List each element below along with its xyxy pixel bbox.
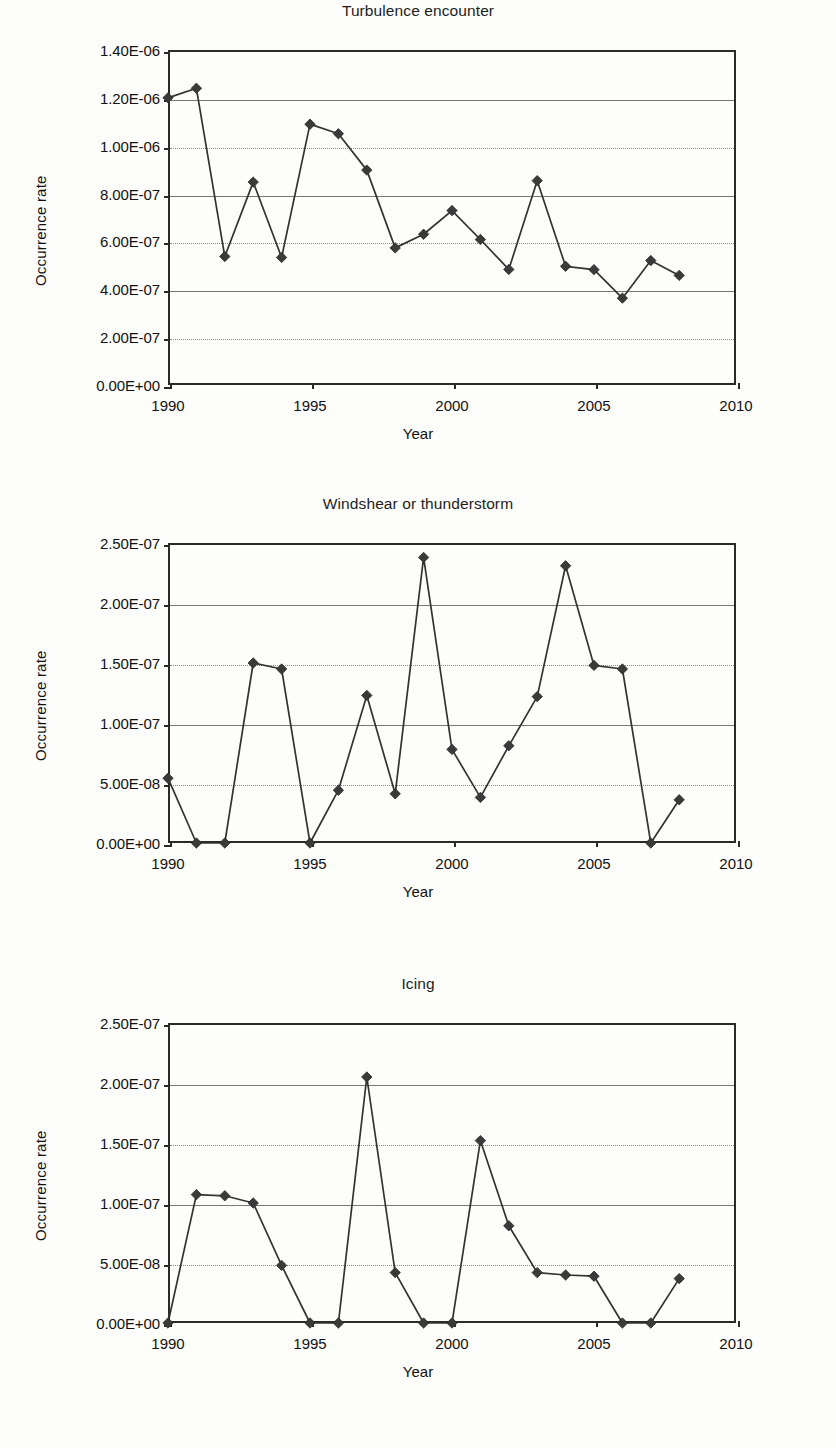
data-point-marker: [333, 1318, 343, 1328]
x-axis-tick-label: 2000: [435, 397, 468, 414]
data-point-marker: [475, 792, 485, 802]
data-point-marker: [163, 1318, 173, 1328]
chart-title: Turbulence encounter: [0, 0, 836, 22]
data-point-marker: [333, 785, 343, 795]
data-point-marker: [674, 795, 684, 805]
data-point-marker: [646, 838, 656, 848]
plot-area: Occurrence rate0.00E+005.00E-081.00E-071…: [0, 515, 836, 905]
data-point-marker: [532, 691, 542, 701]
data-point-marker: [248, 658, 258, 668]
x-axis-tick-label: 2005: [577, 397, 610, 414]
data-point-marker: [390, 1267, 400, 1277]
data-point-marker: [220, 1191, 230, 1201]
x-axis-tick-label: 1995: [293, 1335, 326, 1352]
data-point-marker: [191, 838, 201, 848]
x-axis-tick-label: 2005: [577, 1335, 610, 1352]
chart-title: Icing: [0, 973, 836, 995]
data-point-marker: [504, 741, 514, 751]
x-axis-tick-label: 1995: [293, 397, 326, 414]
data-point-marker: [447, 1318, 457, 1328]
data-point-marker: [674, 1273, 684, 1283]
data-point-marker: [276, 1260, 286, 1270]
plot-area: Occurrence rate0.00E+002.00E-074.00E-076…: [0, 22, 836, 447]
data-point-marker: [191, 83, 201, 93]
x-axis-title: Year: [0, 425, 836, 442]
data-point-marker: [191, 1189, 201, 1199]
chart-icing: Icing Occurrence rate0.00E+005.00E-081.0…: [0, 973, 836, 1385]
x-axis-tick-label: 2000: [435, 1335, 468, 1352]
data-point-marker: [220, 251, 230, 261]
x-axis-tick-label: 1990: [151, 1335, 184, 1352]
x-axis-tick-label: 2010: [719, 397, 752, 414]
data-point-marker: [305, 119, 315, 129]
data-point-marker: [248, 177, 258, 187]
data-point-marker: [447, 744, 457, 754]
data-point-marker: [589, 660, 599, 670]
data-point-marker: [390, 243, 400, 253]
data-point-marker: [560, 1270, 570, 1280]
x-axis-tick-label: 2000: [435, 855, 468, 872]
series-line: [168, 88, 679, 298]
x-axis-title: Year: [0, 1363, 836, 1380]
data-point-marker: [418, 552, 428, 562]
data-series: [0, 515, 836, 853]
plot-area: Occurrence rate0.00E+005.00E-081.00E-071…: [0, 995, 836, 1385]
data-point-marker: [674, 270, 684, 280]
data-series: [0, 995, 836, 1333]
data-point-marker: [589, 1271, 599, 1281]
data-point-marker: [646, 1318, 656, 1328]
data-point-marker: [276, 664, 286, 674]
x-axis-tick-label: 1990: [151, 855, 184, 872]
series-line: [168, 1077, 679, 1323]
data-point-marker: [532, 175, 542, 185]
chart-title: Windshear or thunderstorm: [0, 493, 836, 515]
figure-page: Turbulence encounter Occurrence rate0.00…: [0, 0, 836, 1448]
x-axis-tick-label: 2010: [719, 855, 752, 872]
data-point-marker: [163, 773, 173, 783]
data-point-marker: [362, 1072, 372, 1082]
x-axis-tick-label: 2010: [719, 1335, 752, 1352]
x-axis-tick-label: 2005: [577, 855, 610, 872]
series-line: [168, 557, 679, 843]
data-point-marker: [418, 1318, 428, 1328]
data-point-marker: [362, 690, 372, 700]
data-point-marker: [305, 1318, 315, 1328]
x-axis-title: Year: [0, 883, 836, 900]
data-point-marker: [617, 1318, 627, 1328]
data-point-marker: [276, 252, 286, 262]
data-series: [0, 22, 836, 395]
chart-windshear-or-thunderstorm: Windshear or thunderstorm Occurrence rat…: [0, 493, 836, 905]
data-point-marker: [475, 1135, 485, 1145]
data-point-marker: [504, 1221, 514, 1231]
data-point-marker: [560, 261, 570, 271]
chart-turbulence-encounter: Turbulence encounter Occurrence rate0.00…: [0, 0, 836, 447]
data-point-marker: [163, 93, 173, 103]
data-point-marker: [617, 664, 627, 674]
data-point-marker: [390, 789, 400, 799]
data-point-marker: [248, 1198, 258, 1208]
data-point-marker: [220, 838, 230, 848]
x-axis-tick-label: 1990: [151, 397, 184, 414]
data-point-marker: [560, 561, 570, 571]
data-point-marker: [532, 1267, 542, 1277]
x-axis-tick-label: 1995: [293, 855, 326, 872]
data-point-marker: [305, 838, 315, 848]
